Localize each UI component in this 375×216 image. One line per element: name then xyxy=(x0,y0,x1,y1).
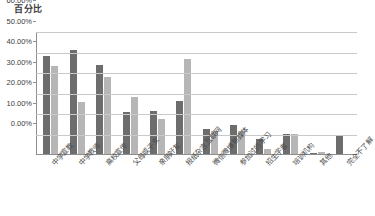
bar xyxy=(336,135,343,154)
y-tick-label: 60.00% xyxy=(7,0,32,5)
gridline xyxy=(36,114,357,115)
bar xyxy=(158,119,165,154)
y-axis-tick-labels: 0.00%10.00%20.00%30.00%40.00%50.00%60.00… xyxy=(0,0,36,123)
bar xyxy=(310,153,317,154)
x-tick-cell: 参加过的学习 xyxy=(223,156,250,216)
gridline xyxy=(36,53,357,54)
x-tick-cell: 报纸杂志互联网 xyxy=(170,156,197,216)
x-tick-cell: 中学宣教 xyxy=(36,156,63,216)
y-tick-label: 50.00% xyxy=(7,16,32,25)
gridline xyxy=(36,32,357,33)
bar xyxy=(291,134,298,155)
x-tick-cell: 其他 xyxy=(304,156,331,216)
x-tick-cell: 亲朋好友 xyxy=(143,156,170,216)
bar xyxy=(70,50,77,154)
y-tick-label: 0.00% xyxy=(11,119,32,128)
x-tick-cell: 招生字者 xyxy=(250,156,277,216)
y-tick-label: 40.00% xyxy=(7,37,32,46)
gridline xyxy=(36,73,357,74)
plot-area xyxy=(36,32,357,155)
bar xyxy=(131,97,138,154)
x-tick-cell: 父母或子女 xyxy=(116,156,143,216)
x-tick-cell: 微信微博新媒体 xyxy=(197,156,224,216)
x-axis-tick-labels: 中学宣教中学教师高校宣传父母或子女亲朋好友报纸杂志互联网微信微博新媒体参加过的学… xyxy=(36,156,357,216)
gridline xyxy=(36,94,357,95)
y-tick-mark xyxy=(33,21,36,22)
y-tick-label: 20.00% xyxy=(7,78,32,87)
bar xyxy=(43,56,50,154)
y-tick-mark xyxy=(33,0,36,1)
bar xyxy=(51,66,58,154)
y-tick-label: 10.00% xyxy=(7,98,32,107)
x-tick-cell: 高校宣传 xyxy=(90,156,117,216)
x-tick-cell: 完全不了解 xyxy=(330,156,357,216)
x-tick-cell: 中学教师 xyxy=(63,156,90,216)
y-tick-label: 30.00% xyxy=(7,57,32,66)
bar xyxy=(78,102,85,154)
bar xyxy=(104,77,111,154)
x-tick-cell: 培训机构 xyxy=(277,156,304,216)
bar xyxy=(96,65,103,154)
gridline xyxy=(36,135,357,136)
